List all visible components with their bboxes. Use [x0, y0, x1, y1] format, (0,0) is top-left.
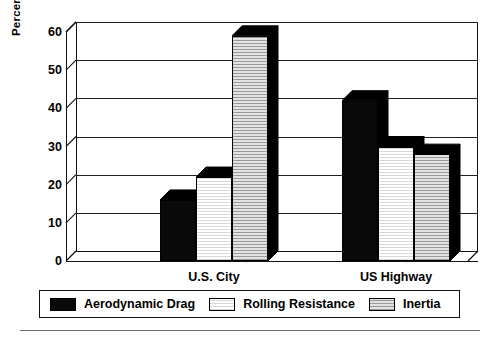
y-axis-title-container: Percentage of Total Work	[0, 0, 30, 280]
bar	[342, 22, 378, 262]
x-category-label: U.S. City	[144, 270, 284, 284]
bar-front-face	[160, 200, 196, 261]
y-tick-label: 60	[36, 26, 62, 39]
y-axis-title: Percentage of Total Work	[10, 0, 28, 36]
x-category-label: US Highway	[326, 270, 466, 284]
plot-area	[66, 22, 478, 262]
bar-front-face	[232, 36, 268, 261]
y-axis-tick-labels: 0102030405060	[28, 22, 62, 272]
y-tick-label: 30	[36, 141, 62, 154]
bar-front-face	[414, 154, 450, 261]
legend-swatch	[50, 298, 76, 311]
footer-divider	[20, 330, 480, 331]
bar	[414, 22, 450, 262]
bar-front-face	[342, 101, 378, 261]
legend-label: Rolling Resistance	[243, 297, 355, 311]
chart-figure: Percentage of Total Work 0102030405060	[0, 0, 499, 343]
bar	[196, 22, 232, 262]
y-tick-label: 50	[36, 64, 62, 77]
legend-item: Aerodynamic Drag	[50, 297, 195, 311]
legend-label: Aerodynamic Drag	[84, 297, 195, 311]
legend-label: Inertia	[403, 297, 441, 311]
bar	[160, 22, 196, 262]
legend-swatch	[209, 298, 235, 311]
bar-front-face	[378, 147, 414, 262]
y-tick-label: 40	[36, 102, 62, 115]
legend: Aerodynamic DragRolling ResistanceInerti…	[39, 290, 460, 318]
legend-item: Inertia	[369, 297, 441, 311]
bar-front-face	[196, 177, 232, 261]
bar	[232, 22, 268, 262]
y-tick-label: 0	[36, 255, 62, 268]
legend-item: Rolling Resistance	[209, 297, 355, 311]
bars-container	[66, 22, 478, 262]
y-tick-label: 20	[36, 179, 62, 192]
bar	[378, 22, 414, 262]
y-tick-label: 10	[36, 217, 62, 230]
legend-swatch	[369, 298, 395, 311]
